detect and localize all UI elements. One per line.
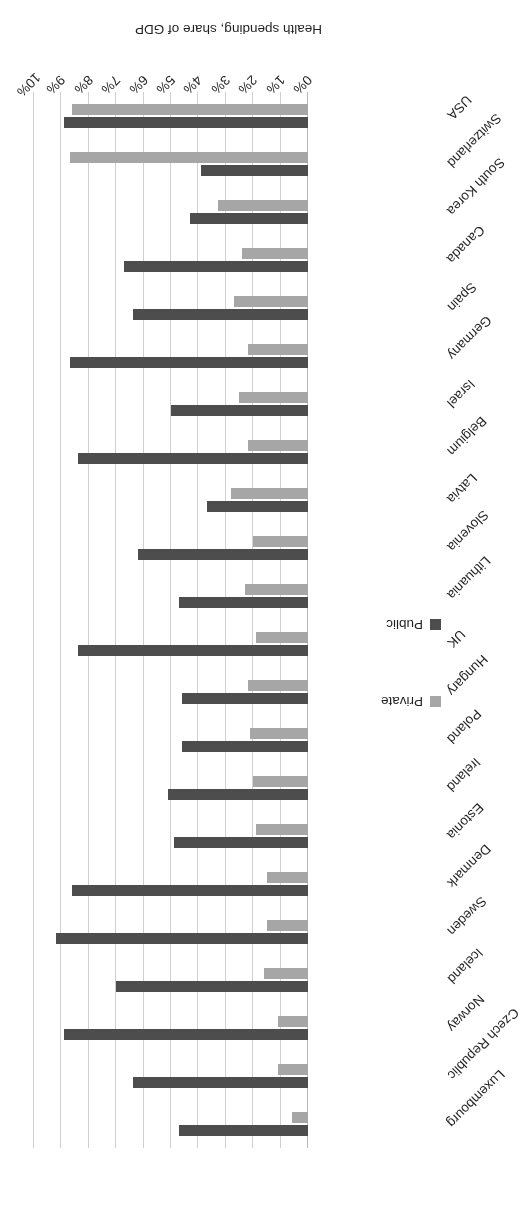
bar-private <box>256 824 308 835</box>
bar-private <box>218 200 308 211</box>
bar-private <box>70 152 308 163</box>
category-label: Israel <box>444 377 477 410</box>
category-label: Belgium <box>444 414 488 458</box>
bar-public <box>190 213 308 224</box>
bar-public <box>168 789 308 800</box>
bar-group <box>34 956 308 1004</box>
bar-private <box>245 584 308 595</box>
bar-group <box>34 140 308 188</box>
bar-public <box>78 453 308 464</box>
bar-public <box>64 1029 308 1040</box>
bar-private <box>242 248 308 259</box>
bar-private <box>267 872 308 883</box>
bar-group <box>34 1004 308 1052</box>
bar-group <box>34 524 308 572</box>
category-label: Sweden <box>444 894 488 938</box>
legend-label: Public <box>386 617 423 632</box>
bar-public <box>133 1077 308 1088</box>
category-label: Germany <box>444 313 493 362</box>
bar-group <box>34 716 308 764</box>
value-axis-ticks: 0%1%2%3%4%5%6%7%8%9%10% <box>34 44 308 90</box>
bar-group <box>34 860 308 908</box>
bar-group <box>34 620 308 668</box>
bar-private <box>256 632 308 643</box>
bar-private <box>250 728 308 739</box>
chart-legend: PrivatePublic <box>321 555 441 709</box>
plot-area <box>34 92 308 1148</box>
bar-private <box>234 296 308 307</box>
bar-private <box>267 920 308 931</box>
axis-title: Health spending, share of GDP <box>0 22 457 37</box>
bar-group <box>34 92 308 140</box>
category-label: Latvia <box>444 471 479 506</box>
bar-group <box>34 668 308 716</box>
bar-private <box>264 968 308 979</box>
bar-group <box>34 380 308 428</box>
legend-label: Private <box>381 694 423 709</box>
bar-public <box>133 309 308 320</box>
bar-group <box>34 476 308 524</box>
legend-entry: Public <box>321 617 441 632</box>
bar-private <box>72 104 308 115</box>
category-label: Lithuania <box>444 553 493 602</box>
bar-private <box>253 536 308 547</box>
bar-private <box>240 392 309 403</box>
category-label: Norway <box>444 992 486 1034</box>
category-label: Poland <box>444 706 484 746</box>
bar-public <box>207 501 308 512</box>
bar-public <box>179 1125 308 1136</box>
bar-private <box>292 1112 308 1123</box>
bar-private <box>231 488 308 499</box>
bar-private <box>248 680 308 691</box>
legend-entry: Private <box>321 694 441 709</box>
bar-group <box>34 812 308 860</box>
bar-public <box>174 837 308 848</box>
bar-public <box>64 117 308 128</box>
bar-group <box>34 332 308 380</box>
category-label: UK <box>444 627 467 650</box>
bar-group <box>34 428 308 476</box>
legend-swatch-icon <box>430 696 441 707</box>
bar-public <box>78 645 308 656</box>
bar-group <box>34 1052 308 1100</box>
category-label: Iceland <box>444 945 485 986</box>
bar-group <box>34 908 308 956</box>
bar-private <box>278 1016 308 1027</box>
bar-public <box>179 597 308 608</box>
bar-public <box>116 981 308 992</box>
bar-private <box>248 344 308 355</box>
bar-group <box>34 188 308 236</box>
category-label: Slovenia <box>444 507 491 554</box>
bar-group <box>34 572 308 620</box>
bar-private <box>248 440 308 451</box>
category-label: USA <box>444 92 474 122</box>
category-label: Hungary <box>444 652 490 698</box>
bar-public <box>182 741 308 752</box>
bar-public <box>138 549 308 560</box>
bar-public <box>124 261 308 272</box>
bar-group <box>34 1100 308 1148</box>
bar-public <box>72 885 308 896</box>
bar-public <box>171 405 308 416</box>
category-label: Spain <box>444 280 478 314</box>
bar-group <box>34 236 308 284</box>
category-label: Denmark <box>444 841 493 890</box>
bar-private <box>253 776 308 787</box>
bar-public <box>56 933 308 944</box>
bar-public <box>70 357 308 368</box>
bar-public <box>182 693 308 704</box>
legend-swatch-icon <box>430 619 441 630</box>
bar-group <box>34 764 308 812</box>
category-label: Canada <box>444 223 487 266</box>
bar-public <box>201 165 308 176</box>
bar-group <box>34 284 308 332</box>
category-label: Ireland <box>444 755 483 794</box>
category-label: Estonia <box>444 800 486 842</box>
bar-private <box>278 1064 308 1075</box>
